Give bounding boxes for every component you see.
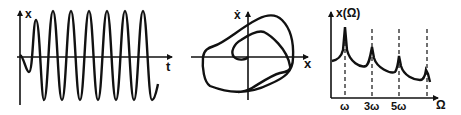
tick-omega: ω (340, 100, 349, 112)
x-axis-label: x (304, 56, 312, 71)
figure: x t ẋ x x(Ω) Ω ω 3ω 5ω (0, 0, 461, 115)
phase-portrait-panel: ẋ x (191, 8, 312, 100)
spectrum-panel: x(Ω) Ω ω 3ω 5ω (331, 6, 446, 112)
oscillation-curve (20, 11, 158, 100)
time-series-panel: x t (17, 7, 172, 105)
y-axis-label: x (25, 7, 32, 21)
spectrum-curve (332, 27, 430, 82)
tick-5omega: 5ω (391, 100, 406, 112)
x-axis-label: t (166, 59, 171, 74)
x-axis-label: Ω (436, 98, 446, 112)
y-axis-label: x(Ω) (336, 6, 360, 20)
tick-3omega: 3ω (364, 100, 379, 112)
harmonic-markers (345, 28, 427, 98)
y-axis-label: ẋ (234, 8, 241, 22)
